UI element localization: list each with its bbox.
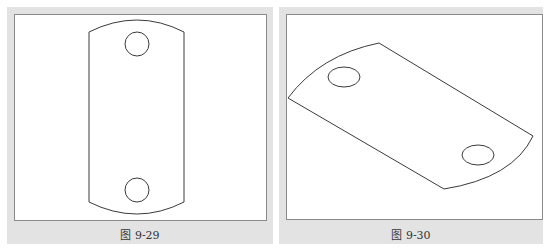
plate-outline [288,43,533,189]
plate-outline [89,20,184,214]
hole-bottom-icon [125,178,149,202]
hole-left-icon [328,67,360,87]
hole-top-icon [125,32,149,56]
plate-top-view [89,20,184,214]
hole-right-icon [462,145,494,165]
drawings [0,0,550,251]
plate-isometric-view [288,43,533,189]
